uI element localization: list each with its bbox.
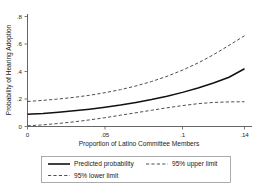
y-tick-label-1: .6 xyxy=(17,40,23,47)
legend: Predicted probability 95% upper limit 95… xyxy=(42,157,231,183)
y-axis-title: Probability of Hearing Adoption xyxy=(5,24,13,115)
legend-label-predicted-probability: Predicted probability xyxy=(74,160,134,168)
series-line-predicted-probability xyxy=(28,69,245,114)
y-tick-label-2: .4 xyxy=(17,68,23,75)
y-tick-label-4: 0 xyxy=(19,123,23,130)
x-tick-label-2: .1 xyxy=(180,131,186,138)
legend-label-95-lower-limit: 95% lower limit xyxy=(74,172,119,179)
x-tick-label-3: .14 xyxy=(240,131,249,138)
x-axis-title: Proportion of Latino Committee Members xyxy=(79,140,200,148)
x-tick-label-0: 0 xyxy=(26,131,30,138)
legend-label-95-upper-limit: 95% upper limit xyxy=(172,160,218,168)
chart-figure: .8 .6 .4 .2 0 0 .05 .1 .14 Proportion of… xyxy=(0,0,264,190)
series-line-95-lower-limit xyxy=(28,102,245,126)
x-tick-label-1: .05 xyxy=(101,131,110,138)
y-tick-label-3: .2 xyxy=(17,95,23,102)
series-group xyxy=(28,36,245,126)
chart-canvas: .8 .6 .4 .2 0 0 .05 .1 .14 Proportion of… xyxy=(0,0,264,190)
series-line-95-upper-limit xyxy=(28,36,245,102)
y-tick-label-0: .8 xyxy=(17,13,23,20)
